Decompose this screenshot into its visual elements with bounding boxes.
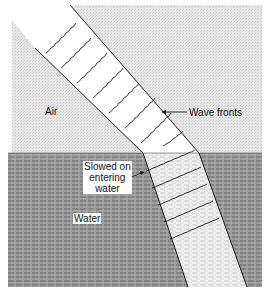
air-label: Air	[45, 106, 57, 117]
water-label: Water	[73, 213, 101, 224]
slowed-label-line-2: entering	[84, 172, 131, 183]
wave-fronts-label: Wave fronts	[189, 107, 242, 118]
slowed-label-line-3: water	[84, 183, 131, 194]
slowed-label-line-1: Slowed on	[84, 161, 131, 172]
slowed-on-entering-water-label: Slowed on entering water	[83, 161, 132, 194]
refraction-diagram	[0, 0, 269, 294]
